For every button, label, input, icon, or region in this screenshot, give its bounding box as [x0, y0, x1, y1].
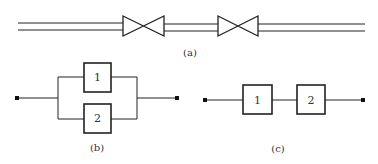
block-label: 1 — [254, 94, 261, 107]
diagram-canvas: (a) 1 2 (b) 1 2 (c) — [0, 0, 378, 164]
caption-a: (a) — [183, 47, 197, 58]
caption-b: (b) — [90, 142, 104, 153]
terminal-right — [175, 96, 179, 100]
block-label: 2 — [94, 112, 101, 125]
terminal-left — [15, 96, 19, 100]
pipe-segment-right — [258, 24, 365, 31]
pipe-segment-middle — [164, 24, 218, 31]
terminal-right — [361, 98, 365, 102]
valve-icon — [218, 16, 258, 36]
caption-c: (c) — [271, 143, 285, 154]
valve-icon — [123, 16, 164, 36]
panel-c — [203, 85, 365, 114]
terminal-left — [203, 98, 207, 102]
block-label: 1 — [94, 71, 101, 84]
block-label: 2 — [308, 94, 315, 107]
pipe-segment-left — [18, 23, 123, 30]
panel-a — [18, 16, 365, 36]
